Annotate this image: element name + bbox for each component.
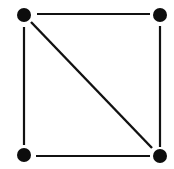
- graph-node-bottom-right: [153, 149, 167, 163]
- graph-node-bottom-left: [17, 148, 31, 162]
- graph-node-top-left: [17, 8, 31, 22]
- graph-figure: Undirected graph on four vertices Square…: [0, 0, 174, 169]
- graph-node-top-right: [153, 8, 167, 22]
- graph-canvas: [0, 0, 174, 169]
